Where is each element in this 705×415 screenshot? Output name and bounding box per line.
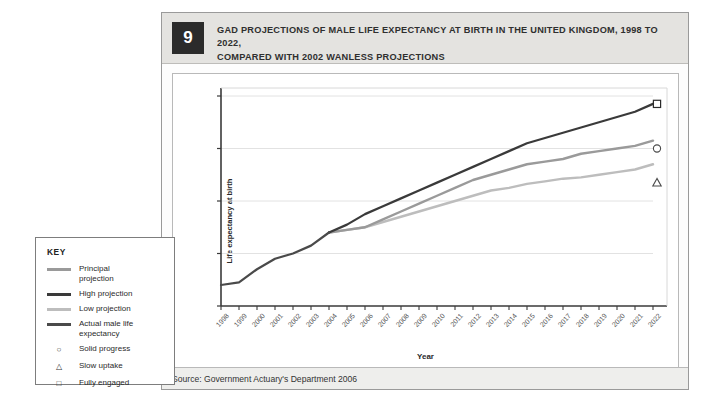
key-line-swatch — [47, 268, 71, 271]
key-line-label: High projection — [79, 289, 132, 299]
key-line-label: Actual male lifeexpectancy — [79, 319, 133, 339]
line-chart-svg — [173, 74, 680, 369]
series-line — [329, 104, 653, 233]
key-marker-row: □Fully engaged — [47, 378, 174, 388]
circle-marker-icon: ○ — [47, 344, 71, 354]
key-marker-row: △Slow uptake — [47, 361, 174, 371]
key-title: KEY — [47, 247, 174, 257]
triangle-marker-icon — [653, 178, 661, 186]
plot-area: Life expectancy at birth 7476788082 1998… — [173, 74, 678, 367]
key-rows: PrincipalprojectionHigh projectionLow pr… — [47, 264, 174, 388]
triangle-marker-icon: △ — [47, 361, 71, 371]
key-marker-label: Slow uptake — [79, 361, 123, 371]
key-line-row: Actual male lifeexpectancy — [47, 319, 174, 339]
key-marker-label: Solid progress — [79, 344, 130, 354]
key-marker-row: ○Solid progress — [47, 344, 174, 354]
chart-legend-key: KEY PrincipalprojectionHigh projectionLo… — [35, 237, 175, 385]
figure-title: GAD PROJECTIONS OF MALE LIFE EXPECTANCY … — [217, 24, 674, 64]
key-line-swatch — [47, 323, 71, 326]
chart-card: Life expectancy at birth 7476788082 1998… — [172, 73, 679, 368]
figure-header: 9 GAD PROJECTIONS OF MALE LIFE EXPECTANC… — [162, 13, 688, 64]
figure-title-line-2: COMPARED WITH 2002 WANLESS PROJECTIONS — [217, 51, 674, 64]
figure-panel: 9 GAD PROJECTIONS OF MALE LIFE EXPECTANC… — [161, 12, 689, 390]
square-marker-icon: □ — [47, 378, 71, 388]
figure-title-line-1: GAD PROJECTIONS OF MALE LIFE EXPECTANCY … — [217, 24, 674, 51]
key-line-swatch — [47, 293, 71, 296]
key-marker-label: Fully engaged — [79, 378, 129, 388]
x-axis-title: Year — [173, 352, 678, 361]
figure-number-badge: 9 — [172, 22, 204, 54]
key-line-label: Low projection — [79, 304, 131, 314]
circle-marker-icon — [653, 145, 660, 152]
series-line — [329, 141, 653, 233]
square-marker-icon — [653, 100, 660, 107]
key-line-row: High projection — [47, 289, 174, 299]
series-line — [221, 233, 329, 286]
figure-source: Source: Government Actuary's Department … — [162, 367, 688, 389]
key-line-swatch — [47, 308, 71, 311]
key-line-row: Low projection — [47, 304, 174, 314]
key-line-label: Principalprojection — [79, 264, 114, 284]
key-line-row: Principalprojection — [47, 264, 174, 284]
